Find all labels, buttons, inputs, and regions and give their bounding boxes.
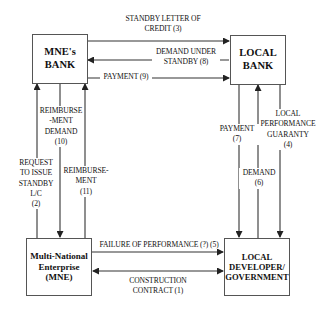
node-mne-bank-label: MNE's BANK — [44, 46, 76, 71]
node-mne-bank: MNE's BANK — [32, 34, 88, 84]
label-payment-7: PAYMENT (7) — [215, 124, 259, 145]
node-local-developer: LOCAL DEVELOPER/ GOVERNMENT — [224, 238, 290, 296]
node-local-bank: LOCAL BANK — [230, 35, 286, 85]
label-payment-9: PAYMENT (9) — [100, 72, 152, 82]
label-failure: FAILURE OF PERFORMANCE (?) (5) — [96, 240, 222, 250]
node-local-bank-label: LOCAL BANK — [239, 47, 276, 72]
label-reimbursement: REIMBURSE- MENT (11) — [62, 166, 110, 197]
label-reimbursement-demand: REIMBURSE -MENT DEMAND (10) — [39, 106, 83, 147]
label-construction-contract: CONSTRUCTION CONTRACT (1) — [120, 276, 196, 297]
node-mne: Multi-National Enterprise (MNE) — [26, 238, 92, 296]
label-demand-6: DEMAND (6) — [239, 168, 279, 189]
label-demand-under-standby: DEMAND UNDER STANDBY (8) — [152, 47, 220, 68]
standby-letter-of-credit-diagram: MNE's BANK LOCAL BANK Multi-National Ent… — [0, 0, 327, 317]
node-mne-label: Multi-National Enterprise (MNE) — [30, 251, 88, 283]
node-local-developer-label: LOCAL DEVELOPER/ GOVERNMENT — [225, 252, 289, 283]
label-local-guaranty: LOCAL PERFORMANCE GUARANTY (4) — [260, 109, 316, 150]
label-request-issue: REQUEST TO ISSUE STANDBY L/C (2) — [16, 158, 56, 209]
label-standby-letter: STANDBY LETTER OF CREDIT (3) — [118, 14, 208, 35]
